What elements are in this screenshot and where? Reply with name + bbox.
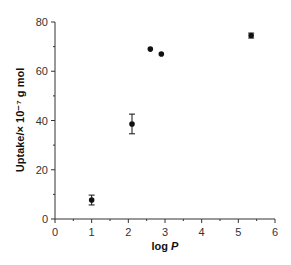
data-point [148,46,154,52]
axes: 0204060800123456 [36,16,278,238]
x-tick-label: 5 [235,226,241,238]
y-tick-label: 0 [42,213,48,225]
x-axis-title: log P [152,240,180,252]
x-tick-label: 2 [125,226,131,238]
y-tick-label: 20 [36,164,48,176]
x-tick-label: 6 [272,226,278,238]
y-tick-label: 80 [36,16,48,28]
data-point [129,121,135,127]
data-points [89,33,255,205]
data-point [159,51,165,57]
x-tick-label: 3 [162,226,168,238]
data-point [248,33,254,39]
chart: 0204060800123456 log P Uptake/× 10⁻⁷ g m… [0,0,291,265]
x-tick-label: 1 [89,226,95,238]
x-tick-label: 0 [52,226,58,238]
data-point [89,197,95,203]
x-tick-label: 4 [199,226,205,238]
y-tick-label: 60 [36,65,48,77]
y-axis-title: Uptake/× 10⁻⁷ g mol [14,68,26,172]
y-tick-label: 40 [36,115,48,127]
